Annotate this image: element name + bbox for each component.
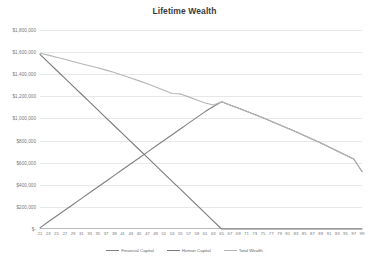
y-axis-tick-label: $1,800,000 (13, 28, 37, 33)
x-axis-tick-label: 21 (38, 231, 43, 236)
x-axis-tick-label: 49 (153, 231, 158, 236)
legend-swatch-icon (106, 250, 119, 252)
x-axis-tick-label: 57 (186, 231, 191, 236)
lifetime-wealth-chart: Lifetime Wealth $1,800,000$1,600,000$1,4… (0, 0, 369, 263)
x-axis-tick-label: 35 (95, 231, 100, 236)
y-axis-tick-label: $600,000 (16, 160, 36, 165)
x-axis-tick-label: 97 (351, 231, 356, 236)
x-axis-tick-label: 41 (120, 231, 125, 236)
chart-title: Lifetime Wealth (0, 6, 369, 16)
chart-legend: Financial CapitalHuman CapitalTotal Weal… (0, 248, 369, 253)
x-axis-tick-label: 69 (236, 231, 241, 236)
x-axis-tick-label: 75 (261, 231, 266, 236)
x-axis-tick-label: 87 (310, 231, 315, 236)
x-axis-tick-label: 63 (211, 231, 216, 236)
legend-item[interactable]: Human Capital (167, 248, 211, 253)
x-axis-tick-label: 33 (87, 231, 92, 236)
x-axis-tick-label: 79 (277, 231, 282, 236)
y-axis-tick-label: $1,000,000 (13, 116, 37, 121)
x-axis-tick-label: 47 (145, 231, 150, 236)
legend-item[interactable]: Financial Capital (106, 248, 153, 253)
x-axis-tick-label: 91 (327, 231, 332, 236)
x-axis-tick-label: 81 (285, 231, 290, 236)
series-line (40, 54, 362, 229)
x-axis-tick-label: 29 (71, 231, 76, 236)
x-axis-tick-label: 99 (360, 231, 365, 236)
y-axis-tick-label: $400,000 (16, 182, 36, 187)
y-axis-tick-label: $200,000 (16, 204, 36, 209)
x-axis-tick-label: 61 (203, 231, 208, 236)
y-axis-labels: $1,800,000$1,600,000$1,400,000$1,200,000… (0, 30, 38, 229)
x-axis-tick-label: 65 (219, 231, 224, 236)
legend-label: Financial Capital (121, 248, 153, 253)
x-axis-tick-label: 59 (194, 231, 199, 236)
x-axis-tick-label: 55 (178, 231, 183, 236)
x-axis-labels: 2123252729313335373941434547495153555759… (40, 231, 362, 241)
plot-area (40, 30, 362, 229)
x-axis-tick-label: 93 (335, 231, 340, 236)
x-axis-tick-label: 53 (170, 231, 175, 236)
x-axis-tick-label: 83 (294, 231, 299, 236)
x-axis-tick-label: 23 (46, 231, 51, 236)
x-axis-tick-label: 31 (79, 231, 84, 236)
y-axis-tick-label: $- (32, 227, 36, 232)
x-axis-tick-label: 67 (228, 231, 233, 236)
x-axis-tick-label: 27 (62, 231, 67, 236)
x-axis-tick-label: 39 (112, 231, 117, 236)
legend-label: Human Capital (182, 248, 211, 253)
series-line (40, 53, 362, 171)
y-axis-tick-label: $1,200,000 (13, 94, 37, 99)
legend-label: Total Wealth (239, 248, 263, 253)
x-axis-tick-label: 73 (252, 231, 257, 236)
x-axis-tick-label: 51 (161, 231, 166, 236)
x-axis-tick-label: 89 (318, 231, 323, 236)
y-axis-tick-label: $1,400,000 (13, 72, 37, 77)
x-axis-tick-label: 95 (343, 231, 348, 236)
x-axis-tick-label: 71 (244, 231, 249, 236)
y-axis-tick-label: $800,000 (16, 138, 36, 143)
y-axis-tick-label: $1,600,000 (13, 50, 37, 55)
x-axis-tick-label: 85 (302, 231, 307, 236)
series-layer (40, 30, 362, 229)
x-axis-tick-label: 45 (137, 231, 142, 236)
legend-item[interactable]: Total Wealth (224, 248, 263, 253)
legend-swatch-icon (224, 250, 237, 252)
legend-swatch-icon (167, 250, 180, 252)
x-axis-tick-label: 37 (104, 231, 109, 236)
x-axis-tick-label: 25 (54, 231, 59, 236)
x-axis-tick-label: 77 (269, 231, 274, 236)
x-axis-tick-label: 43 (128, 231, 133, 236)
